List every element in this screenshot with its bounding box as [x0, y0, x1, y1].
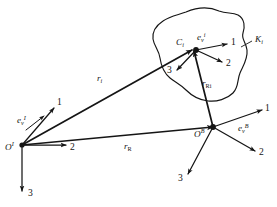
label-layer: OI OB Ci Ki evI evB evi ri	[0, 0, 277, 207]
element-axis-3-label: 3	[167, 64, 172, 75]
label-origin-inertial: OI	[5, 140, 15, 152]
body-axis-2-label: 2	[259, 146, 264, 157]
label-origin-body: OB	[194, 127, 205, 139]
label-basis-inertial: evI	[17, 114, 27, 127]
label-point-ci: Ci	[176, 37, 184, 48]
label-basis-body: evB	[238, 122, 249, 135]
body-axis-1-label: 1	[265, 102, 270, 113]
element-axis-1-label: 1	[231, 36, 236, 47]
inertial-axis-2-label: 2	[70, 141, 75, 152]
label-body-ki: Ki	[254, 34, 263, 45]
label-vector-r-R: rR	[124, 141, 133, 152]
body-axis-3-label: 3	[178, 172, 183, 183]
inertial-axis-1-label: 1	[57, 96, 62, 107]
vector-diagram-figure: OI OB Ci Ki evI evB evi ri	[0, 0, 277, 207]
inertial-axis-3-label: 3	[28, 187, 33, 198]
element-axis-2-label: 2	[226, 57, 231, 68]
label-vector-r-Ri: rRi	[202, 78, 212, 89]
label-basis-ci: evi	[197, 31, 206, 44]
label-vector-r-i: ri	[97, 73, 103, 84]
